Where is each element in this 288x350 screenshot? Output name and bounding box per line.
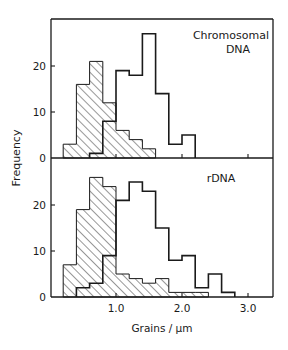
chart-canvas: 01020 010201.02.03.0 Frequency Grains / …	[0, 0, 288, 350]
y-axis-label: Frequency	[10, 129, 23, 186]
y-tick-label: 0	[39, 152, 46, 164]
y-tick-label: 20	[33, 199, 46, 211]
bottom-panel-label: rDNA	[207, 172, 236, 185]
y-tick-label: 0	[39, 291, 46, 303]
top-panel-label-line2: DNA	[226, 43, 251, 56]
x-axis-label: Grains / µm	[131, 322, 192, 334]
hatched-histogram	[63, 177, 208, 297]
x-tick-label: 2.0	[174, 302, 191, 314]
y-tick-label: 10	[33, 106, 46, 118]
x-tick-label: 1.0	[108, 302, 125, 314]
y-tick-label: 10	[33, 245, 46, 257]
y-tick-label: 20	[33, 60, 46, 72]
top-panel-label-line1: Chromosomal	[193, 29, 269, 42]
histogram-figure: 01020 010201.02.03.0 Frequency Grains / …	[0, 0, 288, 350]
x-tick-label: 3.0	[240, 302, 257, 314]
panel-rdna: 010201.02.03.0	[33, 158, 273, 314]
